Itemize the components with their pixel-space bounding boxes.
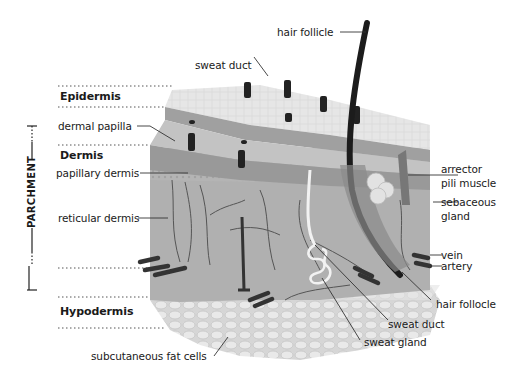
label-sebaceous-1: sebaceous — [441, 196, 496, 209]
label-papillary-dermis: papillary dermis — [56, 167, 139, 180]
label-sweat-duct-bottom: sweat duct — [388, 318, 445, 331]
skin-diagram: Epidermis Dermis Hypodermis dermal papil… — [0, 0, 518, 388]
label-sweat-gland: sweat gland — [364, 336, 427, 349]
label-sebaceous-2: gland — [441, 210, 470, 223]
label-arrector-pili-1: arrector — [441, 163, 482, 176]
label-dermis: Dermis — [60, 149, 103, 162]
label-sweat-duct-top: sweat duct — [195, 59, 252, 72]
label-parchment: PARCHMENT — [26, 156, 37, 228]
label-artery: artery — [441, 260, 472, 273]
label-hair-follicle-top: hair follicle — [277, 26, 333, 39]
label-arrector-pili-2: pili muscle — [441, 177, 496, 190]
label-hair-follicle-bottom: hair follocle — [436, 298, 496, 311]
label-epidermis: Epidermis — [60, 90, 121, 103]
label-reticular-dermis: reticular dermis — [58, 212, 139, 225]
label-subcutaneous-fat-cells: subcutaneous fat cells — [91, 350, 207, 363]
label-hypodermis: Hypodermis — [60, 305, 133, 318]
label-dermal-papilla: dermal papilla — [58, 120, 132, 133]
